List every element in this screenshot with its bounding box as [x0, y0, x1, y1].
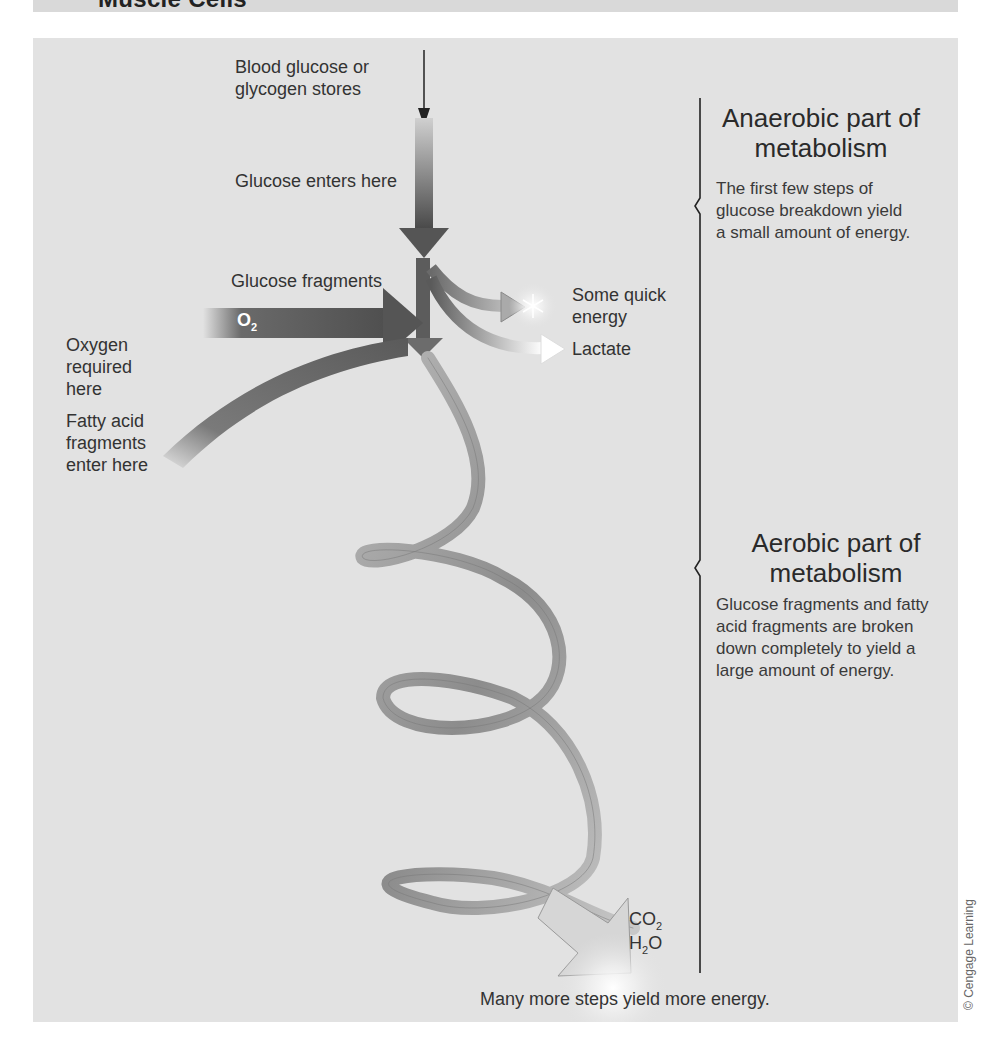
o2-symbol: O2 — [237, 310, 257, 333]
label-bottom-summary: Many more steps yield more energy. — [480, 988, 820, 1010]
label-fatty-acid: Fatty acid fragments enter here — [66, 410, 176, 476]
label-oxygen: Oxygen required here — [66, 334, 156, 400]
aerobic-heading: Aerobic part of metabolism — [716, 528, 956, 588]
energy-spark-icon — [509, 282, 557, 330]
aerobic-spiral-icon — [362, 358, 633, 928]
aerobic-description: Glucose fragments and fatty acid fragmen… — [716, 594, 946, 682]
copyright-credit: © Cengage Learning — [962, 870, 980, 1010]
anaerobic-description: The first few steps of glucose breakdown… — [716, 178, 916, 244]
label-blood-glucose: Blood glucose or glycogen stores — [235, 56, 435, 100]
bracket-divider — [695, 98, 700, 973]
metabolism-diagram-panel: Blood glucose or glycogen stores Glucose… — [33, 38, 958, 1022]
label-quick-energy: Some quick energy — [572, 284, 692, 328]
glucose-arrow-icon — [399, 118, 449, 258]
label-lactate: Lactate — [572, 338, 672, 360]
header-band: Muscle Cells — [33, 0, 958, 12]
h2o-label: H2O — [629, 932, 662, 961]
label-glucose-fragments: Glucose fragments — [231, 270, 411, 292]
anaerobic-heading: Anaerobic part of metabolism — [716, 103, 926, 163]
fatty-acid-arrow-icon — [163, 338, 408, 468]
section-title: Muscle Cells — [98, 0, 247, 12]
label-glucose-enters: Glucose enters here — [235, 170, 405, 192]
